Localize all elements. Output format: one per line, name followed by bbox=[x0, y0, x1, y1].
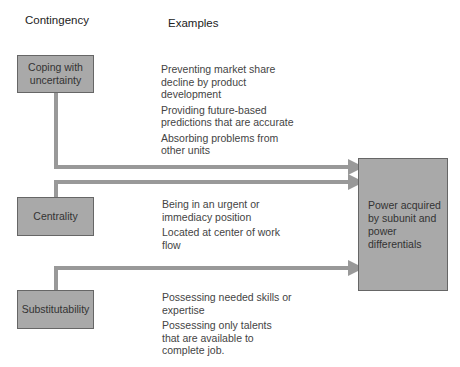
example-item: Preventing market share decline by produ… bbox=[161, 63, 301, 101]
example-item: Being in an urgent or immediacy position bbox=[162, 198, 292, 223]
examples-uncertainty: Preventing market share decline by produ… bbox=[161, 63, 301, 160]
box-power-acquired: Power acquired by subunit and power diff… bbox=[358, 158, 448, 291]
examples-centrality: Being in an urgent or immediacy position… bbox=[162, 198, 292, 254]
example-item: Located at center of work flow bbox=[162, 226, 292, 251]
example-item: Possessing only talents that are availab… bbox=[162, 319, 292, 357]
example-item: Absorbing problems from other units bbox=[161, 132, 301, 157]
example-item: Possessing needed skills or expertise bbox=[162, 291, 292, 316]
arrow-substitutability bbox=[56, 268, 356, 290]
box-coping-with-uncertainty: Coping with uncertainty bbox=[17, 55, 94, 93]
example-item: Providing future-based predictions that … bbox=[161, 104, 301, 129]
examples-substitutability: Possessing needed skills or expertise Po… bbox=[162, 291, 292, 360]
contingency-header: Contingency bbox=[25, 14, 89, 26]
box-substitutability: Substitutability bbox=[17, 290, 94, 329]
examples-header: Examples bbox=[168, 17, 219, 29]
box-centrality: Centrality bbox=[17, 197, 94, 236]
arrow-centrality bbox=[56, 182, 356, 197]
